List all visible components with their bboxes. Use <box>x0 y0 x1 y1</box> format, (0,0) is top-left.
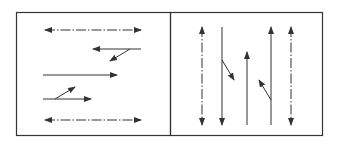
arrow-icon <box>110 49 130 61</box>
arrow-icon <box>259 80 271 100</box>
vertical-lanes-panel <box>171 13 323 136</box>
lane-marking-diagram <box>0 0 339 145</box>
arrow-icon <box>222 60 234 80</box>
panel-border <box>17 13 171 136</box>
horizontal-lanes-panel <box>17 13 171 136</box>
arrow-icon <box>55 87 75 99</box>
